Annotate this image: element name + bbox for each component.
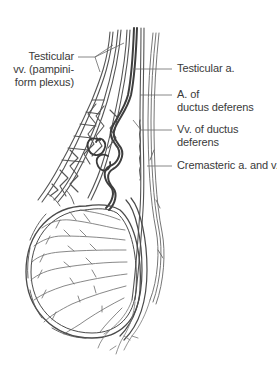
label-line: Cremasteric a. and v. <box>177 159 277 172</box>
cremasteric-vessels <box>148 33 164 304</box>
label-artery-of-ductus-deferens: A. of ductus deferens <box>177 88 254 114</box>
label-testicular-artery: Testicular a. <box>177 62 234 75</box>
label-line: Vv. of ductus <box>177 123 238 136</box>
surface-vessels <box>28 190 86 338</box>
label-testicular-veins: Testicular vv. (pampini- form plexus) <box>13 50 74 89</box>
label-line: Testicular a. <box>177 62 234 75</box>
label-line: Testicular <box>13 50 74 63</box>
testicular-artery-coils <box>88 138 111 170</box>
label-line: deferens <box>177 136 238 149</box>
label-line: A. of <box>177 88 254 101</box>
leader-veins-of-ductus <box>133 120 172 130</box>
label-line: form plexus) <box>13 76 74 89</box>
label-veins-of-ductus-deferens: Vv. of ductus deferens <box>177 123 238 149</box>
testis <box>26 205 140 338</box>
anatomical-figure: Testicular vv. (pampini- form plexus) Te… <box>0 0 277 369</box>
label-line: vv. (pampini- <box>13 63 74 76</box>
label-cremasteric-artery-and-vein: Cremasteric a. and v. <box>177 159 277 172</box>
label-line: ductus deferens <box>177 101 254 114</box>
